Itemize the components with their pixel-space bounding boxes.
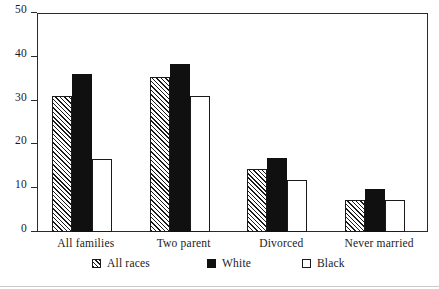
bar-group [52,13,112,232]
bar-chart-figure: 01020304050 All familiesTwo parentDivorc… [0,0,439,289]
legend-label: All races [107,257,150,269]
y-axis-tick-label: 0 [21,223,27,235]
bar[interactable] [170,64,190,232]
bars-layer [37,13,428,232]
legend-swatch-icon [302,259,311,268]
legend-entry[interactable]: All races [92,257,150,269]
x-axis-label: Never married [322,236,436,250]
x-axis-label: Two parent [127,236,241,250]
bar[interactable] [345,200,365,232]
bar[interactable] [92,159,112,232]
legend-swatch-icon [207,259,216,268]
x-axis-category-labels: All familiesTwo parentDivorcedNever marr… [37,236,428,254]
y-axis-tick-label: 20 [15,135,27,147]
y-axis-tick-label: 40 [15,48,27,60]
y-axis-tick-label: 30 [15,92,27,104]
bar[interactable] [247,169,267,233]
legend-entry[interactable]: Black [302,257,345,269]
y-axis-tick-label: 50 [15,4,27,16]
bar[interactable] [150,77,170,232]
page-bottom-rule [0,286,439,287]
legend-entry[interactable]: White [207,257,251,269]
bar[interactable] [72,74,92,232]
bar-group [150,13,210,232]
legend-swatch-icon [92,259,101,268]
x-axis-label: Divorced [225,236,339,250]
bar[interactable] [385,200,405,232]
bar[interactable] [190,96,210,232]
bar[interactable] [267,158,287,232]
bar-group [247,13,307,232]
bar[interactable] [287,180,307,232]
chart-legend: All racesWhiteBlack [37,257,428,277]
bar-group [345,13,405,232]
x-axis-label: All families [29,236,143,250]
y-axis-tick-label: 10 [15,179,27,191]
legend-label: White [222,257,251,269]
bar[interactable] [52,96,72,232]
legend-label: Black [317,257,345,269]
bar[interactable] [365,189,385,232]
